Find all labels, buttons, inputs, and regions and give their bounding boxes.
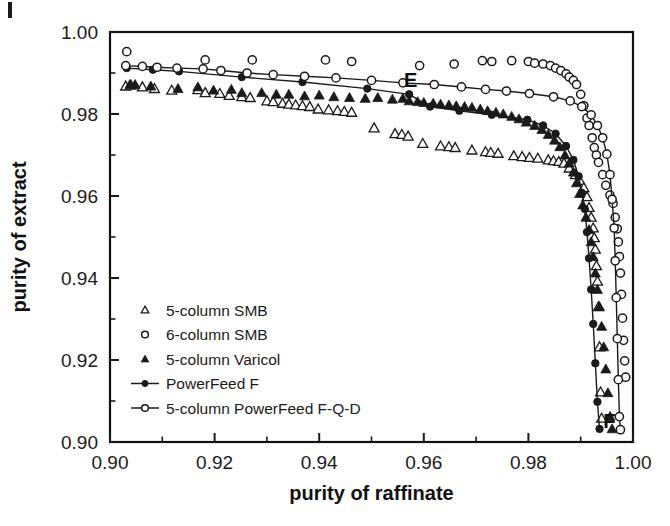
open-circle-marker bbox=[430, 80, 438, 88]
open-circle-marker bbox=[332, 74, 340, 82]
open-triangle-marker bbox=[347, 107, 357, 116]
open-circle-marker bbox=[602, 181, 610, 189]
filled-circle-marker bbox=[592, 360, 599, 367]
legend-item-0[interactable]: 5-column SMB bbox=[141, 302, 267, 319]
open-circle-marker bbox=[608, 195, 616, 203]
x-tick-label: 0.92 bbox=[196, 452, 233, 473]
series-0 bbox=[121, 80, 607, 422]
filled-circle-marker bbox=[142, 380, 148, 386]
open-circle-marker bbox=[142, 331, 149, 338]
filled-circle-marker bbox=[552, 130, 559, 137]
filled-circle-marker bbox=[575, 173, 582, 180]
legend-item-2[interactable]: 5-column Varicol bbox=[141, 351, 280, 368]
filled-circle-marker bbox=[405, 91, 412, 98]
legend-item-3[interactable]: PowerFeed F bbox=[131, 375, 259, 392]
open-circle-marker bbox=[614, 376, 622, 384]
filled-triangle-marker bbox=[284, 89, 294, 98]
filled-triangle-marker bbox=[209, 85, 219, 94]
open-circle-marker bbox=[593, 121, 601, 129]
x-tick-label: 0.94 bbox=[301, 452, 338, 473]
x-tick-label: 1.00 bbox=[615, 452, 652, 473]
filled-circle-marker bbox=[585, 255, 592, 262]
y-tick-label: 0.98 bbox=[61, 104, 98, 125]
open-circle-marker bbox=[142, 405, 149, 412]
open-circle-marker bbox=[613, 335, 621, 343]
filled-triangle-marker bbox=[475, 104, 485, 113]
open-circle-marker bbox=[611, 213, 619, 221]
filled-triangle-marker bbox=[329, 92, 339, 101]
open-circle-marker bbox=[621, 357, 629, 365]
filled-triangle-marker bbox=[237, 88, 247, 97]
filled-triangle-marker bbox=[314, 90, 324, 99]
open-circle-marker bbox=[610, 224, 618, 232]
open-circle-marker bbox=[585, 121, 593, 129]
open-circle-marker bbox=[594, 158, 602, 166]
y-axis-title: purity of extract bbox=[8, 161, 30, 312]
open-circle-marker bbox=[243, 69, 251, 77]
y-tick-label: 1.00 bbox=[61, 22, 98, 43]
filled-triangle-marker bbox=[300, 91, 310, 100]
x-tick-label: 0.98 bbox=[510, 452, 547, 473]
open-circle-marker bbox=[508, 57, 516, 65]
y-tick-label: 0.90 bbox=[61, 432, 98, 453]
open-triangle-marker bbox=[509, 151, 519, 160]
filled-circle-marker bbox=[426, 103, 433, 110]
open-circle-marker bbox=[153, 63, 161, 71]
open-circle-marker bbox=[615, 412, 623, 420]
x-tick-label: 0.90 bbox=[92, 452, 129, 473]
open-circle-marker bbox=[606, 171, 614, 179]
open-circle-marker bbox=[616, 269, 624, 277]
open-circle-marker bbox=[588, 134, 596, 142]
open-triangle-marker bbox=[493, 148, 503, 157]
x-axis-ticks bbox=[110, 433, 633, 442]
filled-circle-marker bbox=[539, 122, 546, 129]
open-circle-marker bbox=[572, 80, 580, 88]
open-triangle-marker bbox=[313, 104, 323, 113]
legend-label: 5-column Varicol bbox=[166, 351, 280, 368]
open-circle-marker bbox=[201, 56, 209, 64]
open-triangle-marker bbox=[524, 152, 534, 161]
annotation-F: F bbox=[603, 410, 615, 432]
open-circle-marker bbox=[599, 134, 607, 142]
open-circle-marker bbox=[614, 238, 622, 246]
open-circle-marker bbox=[488, 57, 496, 65]
open-triangle-marker bbox=[324, 105, 334, 114]
filled-triangle-marker bbox=[601, 364, 611, 373]
filled-circle-marker bbox=[364, 85, 371, 92]
filled-triangle-marker bbox=[603, 388, 613, 397]
filled-circle-marker bbox=[562, 142, 569, 149]
open-circle-marker bbox=[618, 314, 626, 322]
open-circle-marker bbox=[269, 71, 277, 79]
open-circle-marker bbox=[217, 66, 225, 74]
legend-item-4[interactable]: 5-column PowerFeed F-Q-D bbox=[131, 400, 361, 417]
open-triangle-marker bbox=[591, 261, 601, 270]
open-circle-marker bbox=[457, 83, 465, 91]
annotation-E: E bbox=[404, 69, 417, 91]
open-circle-marker bbox=[300, 72, 308, 80]
filled-triangle-marker bbox=[141, 355, 149, 362]
filled-triangle-marker bbox=[193, 82, 203, 91]
y-tick-label: 0.96 bbox=[61, 186, 98, 207]
open-circle-marker bbox=[577, 90, 585, 98]
chart-legend: 5-column SMB6-column SMB5-column Varicol… bbox=[131, 302, 361, 417]
filled-triangle-marker bbox=[467, 102, 477, 111]
open-triangle-marker bbox=[533, 153, 543, 162]
open-circle-marker bbox=[531, 59, 539, 67]
filled-circle-marker bbox=[583, 228, 590, 235]
filled-circle-marker bbox=[456, 107, 463, 114]
open-triangle-marker bbox=[141, 306, 149, 313]
x-tick-label: 0.96 bbox=[405, 452, 442, 473]
filled-circle-marker bbox=[570, 156, 577, 163]
x-axis-tick-labels: 0.900.920.940.960.981.00 bbox=[92, 452, 652, 473]
filled-triangle-marker bbox=[271, 89, 281, 98]
y-axis-tick-labels: 0.900.920.940.960.981.00 bbox=[61, 22, 98, 453]
filled-circle-marker bbox=[581, 205, 588, 212]
open-triangle-marker bbox=[467, 145, 477, 154]
open-circle-marker bbox=[138, 62, 146, 70]
y-tick-label: 0.92 bbox=[61, 350, 98, 371]
filled-triangle-marker bbox=[507, 111, 517, 120]
legend-item-1[interactable]: 6-column SMB bbox=[142, 326, 268, 343]
open-circle-marker bbox=[173, 64, 181, 72]
open-circle-marker bbox=[367, 76, 375, 84]
filled-circle-marker bbox=[587, 286, 594, 293]
